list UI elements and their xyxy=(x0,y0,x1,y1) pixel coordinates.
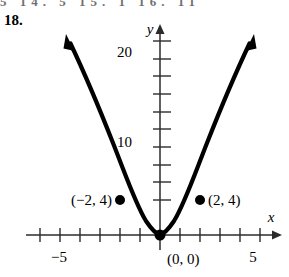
curve-right-arrowhead xyxy=(246,34,257,51)
x-axis-name: x xyxy=(267,209,275,225)
y-axis-label-20: 20 xyxy=(117,44,132,60)
y-axis-arrowhead xyxy=(156,24,165,34)
point-label-2-4: (2, 4) xyxy=(208,192,241,209)
point-label-neg2-4: (−2, 4) xyxy=(71,192,112,209)
y-axis-name: y xyxy=(145,21,154,37)
point-label-origin: (0, 0) xyxy=(167,251,200,268)
point-marker-neg2-4 xyxy=(115,195,125,205)
x-axis-label-5: 5 xyxy=(249,249,257,265)
parabola-graph-figure: 20 10 −5 5 y x (−2, 4) (2, 4) (0, 0) xyxy=(0,0,289,277)
x-axis-label-neg5: −5 xyxy=(51,249,67,265)
x-axis-arrowhead xyxy=(272,231,282,240)
graph-svg: 20 10 −5 5 y x (−2, 4) (2, 4) (0, 0) xyxy=(0,0,289,277)
y-axis-label-10: 10 xyxy=(117,134,132,150)
figure-page: 5 14. 5 15. 1 16. 11 18. xyxy=(0,0,289,277)
point-marker-origin xyxy=(155,230,166,241)
curve-left-arrowhead xyxy=(64,34,75,51)
point-marker-2-4 xyxy=(195,195,205,205)
